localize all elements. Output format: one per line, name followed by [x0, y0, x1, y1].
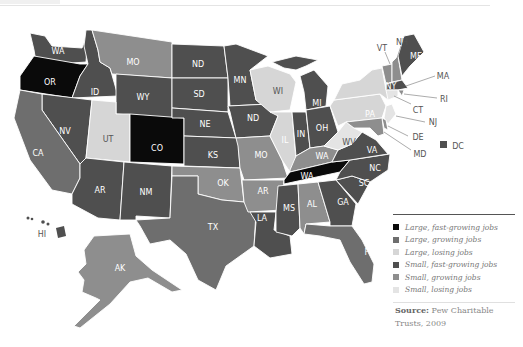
label-fl: FL: [364, 248, 374, 257]
label-nm: NM: [140, 188, 153, 197]
label-ia: ND: [247, 114, 259, 123]
label-mi: MI: [312, 99, 321, 108]
legend: Large, fast-growing jobs Large, growing …: [393, 214, 515, 303]
label-wy: WY: [137, 93, 150, 102]
label-oh: OH: [316, 124, 328, 133]
swatch-small-fast: [393, 262, 399, 268]
leader-nj: [396, 116, 425, 122]
state-co[interactable]: [130, 114, 184, 164]
leader-ri: [404, 94, 437, 98]
label-wa: WA: [52, 47, 65, 56]
label-ga: GA: [337, 198, 349, 207]
legend-item-large-fast: Large, fast-growing jobs: [393, 221, 515, 234]
label-wi: WI: [273, 87, 283, 96]
label-or: OR: [44, 78, 56, 87]
swatch-large-losing: [393, 249, 399, 255]
label-al: AL: [307, 200, 317, 209]
leader-ma: [406, 76, 435, 86]
label-ny: NY: [386, 82, 397, 91]
label-la: LA: [257, 214, 268, 223]
label-me: ME: [410, 52, 422, 61]
label-ma: MA: [437, 72, 450, 81]
label-sc: SC: [359, 179, 370, 188]
label-az: AR: [94, 186, 105, 195]
label-id: ID: [91, 88, 100, 97]
label-vt: VT: [377, 44, 387, 53]
legend-item-small-fast: Small, fast-growing jobs: [393, 259, 515, 272]
label-va: VA: [367, 146, 378, 155]
state-dc[interactable]: [440, 141, 447, 148]
source-note: Source: Pew Charitable Trusts, 2009: [395, 304, 520, 330]
label-ut: UT: [103, 135, 114, 144]
label-ne: NE: [199, 120, 210, 129]
legend-top-rule: [393, 214, 515, 215]
label-tx: TX: [207, 223, 219, 232]
label-mo: MO: [254, 151, 267, 160]
legend-item-small-losing: Small, losing jobs: [393, 284, 515, 297]
legend-item-large-growing: Large, growing jobs: [393, 234, 515, 247]
label-pa: PA: [365, 110, 375, 119]
label-de: DE: [412, 133, 423, 142]
label-ks: KS: [208, 151, 218, 160]
label-ky: WA: [316, 152, 329, 161]
state-ct[interactable]: [386, 90, 398, 100]
leader-ct: [394, 96, 411, 104]
label-ar: AR: [257, 187, 268, 196]
label-nc: NC: [369, 164, 381, 173]
label-ca: CA: [32, 149, 44, 158]
legend-bottom-rule: [393, 302, 515, 303]
label-ri: RI: [440, 95, 448, 104]
label-ms: MS: [283, 204, 295, 213]
label-ct: CT: [413, 106, 424, 115]
label-dc: DC: [452, 142, 464, 151]
label-mn: MN: [234, 76, 247, 85]
label-hi: HI: [38, 230, 46, 239]
label-wv: WV: [342, 138, 356, 147]
label-in: IN: [297, 130, 305, 139]
legend-item-small-growing: Small, growing jobs: [393, 271, 515, 284]
label-md: MD: [413, 150, 426, 159]
swatch-large-fast: [393, 224, 399, 230]
label-sd: SD: [193, 90, 204, 99]
label-nv: NV: [59, 127, 71, 136]
label-co: CO: [151, 144, 163, 153]
state-ak[interactable]: [74, 234, 182, 328]
swatch-small-losing: [393, 287, 399, 293]
leader-md: [384, 132, 411, 150]
legend-item-large-losing: Large, losing jobs: [393, 246, 515, 259]
legend-label: Large, losing jobs: [405, 248, 473, 257]
label-ok: OK: [217, 179, 229, 188]
label-nj: NJ: [429, 118, 437, 127]
legend-label: Small, fast-growing jobs: [405, 260, 497, 269]
source-prefix: Source:: [395, 305, 429, 315]
legend-label: Large, growing jobs: [405, 235, 481, 244]
legend-label: Small, losing jobs: [405, 285, 472, 294]
swatch-small-growing: [393, 274, 399, 280]
swatch-large-growing: [393, 237, 399, 243]
state-hi[interactable]: [27, 217, 67, 239]
label-il: IL: [282, 136, 289, 145]
label-nd: ND: [192, 60, 204, 69]
label-tn: WA: [301, 172, 314, 181]
label-mt: MO: [126, 58, 139, 67]
leader-de: [388, 126, 408, 136]
label-nh: NH: [396, 38, 408, 47]
leader-vt: [385, 52, 390, 64]
legend-label: Small, growing jobs: [405, 273, 481, 282]
label-ak: AK: [115, 264, 126, 273]
state-ri[interactable]: [398, 90, 404, 96]
legend-label: Large, fast-growing jobs: [405, 223, 498, 232]
